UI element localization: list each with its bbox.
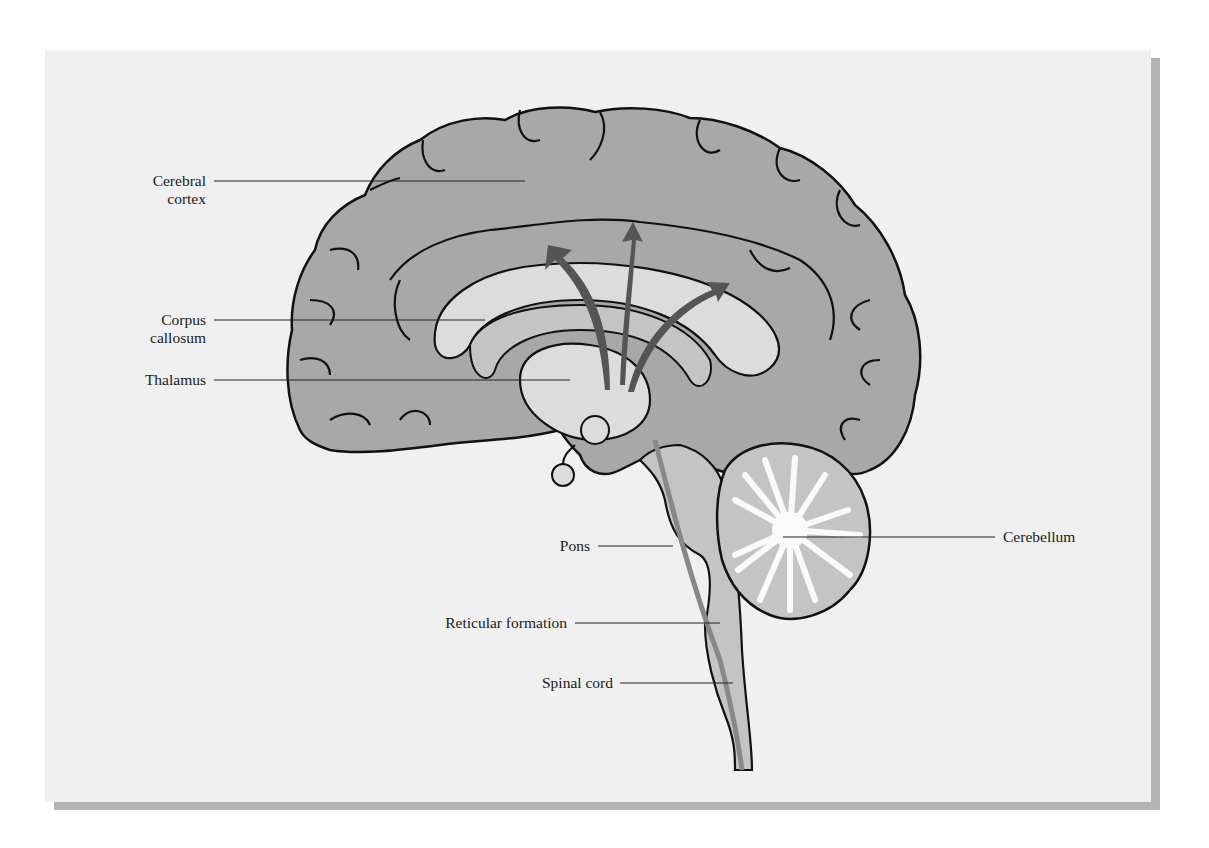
label-reticular-formation: Reticular formation [380,614,567,632]
label-cerebral-cortex: Cerebral cortex [120,172,206,208]
label-cerebellum: Cerebellum [1003,528,1075,546]
pituitary-shape [552,464,574,486]
label-line: Cerebral [120,172,206,190]
label-spinal-cord: Spinal cord [480,674,613,692]
label-pons: Pons [500,537,590,555]
small-structure [581,416,609,444]
label-line: Corpus [120,311,206,329]
label-line: cortex [120,190,206,208]
label-corpus-callosum: Corpus callosum [120,311,206,347]
brain-diagram [0,0,1209,848]
label-line: callosum [120,329,206,347]
label-thalamus: Thalamus [100,371,206,389]
